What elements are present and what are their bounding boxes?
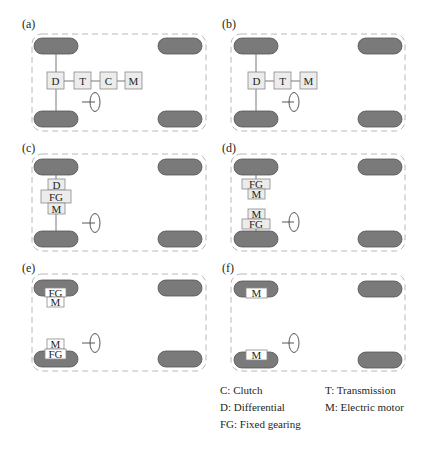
wheel-front-left [234, 159, 278, 175]
svg-text:D: D [253, 75, 261, 87]
panel-label-f: (f) [222, 261, 234, 275]
wheel-rear-right [158, 111, 202, 127]
wheel-rear-right [158, 231, 202, 247]
panel-label-c: (c) [22, 141, 35, 155]
wheel-rear-right [358, 231, 402, 247]
legend-fixed-gearing: FG: Fixed gearing [220, 418, 301, 430]
legend-electric-motor: M: Electric motor [325, 401, 404, 413]
wheel-rear-right [158, 351, 202, 367]
steering-wheel-icon [82, 93, 100, 112]
svg-text:FG: FG [48, 348, 62, 360]
svg-text:D: D [53, 179, 61, 191]
wheel-front-right [358, 281, 402, 297]
svg-text:C: C [105, 75, 112, 87]
panel-label-a: (a) [22, 17, 35, 31]
svg-text:D: D [52, 75, 60, 87]
legend-differential: D: Differential [220, 401, 285, 413]
wheel-rear-left [34, 111, 78, 127]
wheel-front-left [234, 38, 278, 54]
svg-text:M: M [52, 203, 62, 215]
svg-text:T: T [279, 75, 286, 87]
legend-transmission: T: Transmission [325, 384, 396, 396]
panel-b: (b) D T M [222, 17, 405, 131]
legend-clutch: C: Clutch [220, 384, 262, 396]
panel-f: (f) M M [222, 261, 405, 371]
wheel-rear-right [358, 111, 402, 127]
svg-text:M: M [252, 188, 262, 200]
wheel-front-right [358, 159, 402, 175]
wheel-front-right [158, 159, 202, 175]
panel-e: (e) FG M M FG [22, 261, 206, 371]
svg-text:T: T [79, 75, 86, 87]
svg-text:M: M [51, 296, 61, 308]
wheel-rear-left [34, 231, 78, 247]
panel-d: (d) FG M M FG [222, 141, 405, 251]
steering-wheel-icon [282, 93, 299, 112]
panel-a: (a) D T C M [22, 17, 206, 131]
wheel-front-left [34, 159, 78, 175]
svg-text:FG: FG [49, 191, 63, 203]
panel-c: (c) D FG M [22, 141, 206, 251]
svg-text:M: M [304, 75, 314, 87]
svg-text:M: M [252, 349, 262, 361]
svg-text:M: M [129, 75, 139, 87]
wheel-rear-left [234, 231, 278, 247]
panel-label-b: (b) [222, 17, 236, 31]
steering-wheel-icon [282, 213, 299, 232]
wheel-rear-right [358, 352, 402, 368]
wheel-front-right [358, 38, 402, 54]
steering-wheel-icon [282, 334, 299, 353]
wheel-front-right [158, 38, 202, 54]
wheel-rear-left [234, 111, 278, 127]
panel-label-d: (d) [222, 141, 236, 155]
wheel-front-left [34, 38, 78, 54]
svg-text:FG: FG [249, 218, 263, 230]
panel-label-e: (e) [22, 261, 35, 275]
steering-wheel-icon [82, 214, 100, 233]
steering-wheel-icon [82, 334, 100, 353]
wheel-front-right [158, 280, 202, 296]
svg-text:M: M [252, 287, 262, 299]
